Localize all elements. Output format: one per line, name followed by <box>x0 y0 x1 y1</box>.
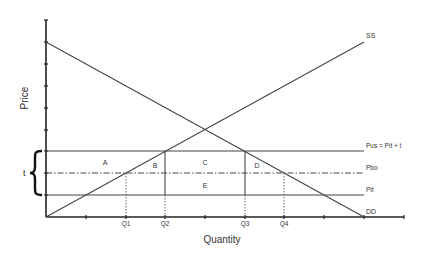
q2-label: Q2 <box>161 220 170 228</box>
q3-label: Q3 <box>241 220 250 228</box>
tariff-brace: t <box>23 151 42 195</box>
pit-label: Pit <box>366 186 374 193</box>
tariff-diagram: Price Quantity SS DD Pus = Pit + t Pbo P… <box>0 0 425 258</box>
quantity-labels: Q1 Q2 Q3 Q4 <box>122 220 289 228</box>
q4-label: Q4 <box>280 220 289 228</box>
x-axis-label: Quantity <box>203 234 240 245</box>
area-a-label: A <box>103 159 108 166</box>
area-b-label: B <box>153 162 158 169</box>
area-d-label: D <box>254 162 259 169</box>
pbo-label: Pbo <box>366 164 378 171</box>
tariff-label: t <box>23 168 26 178</box>
brace-icon <box>30 151 42 195</box>
q1-label: Q1 <box>122 220 131 228</box>
supply-label: SS <box>366 32 376 39</box>
demand-label: DD <box>366 208 376 215</box>
y-axis-label: Price <box>19 86 30 109</box>
pus-label: Pus = Pit + t <box>366 142 402 149</box>
area-e-label: E <box>203 182 208 189</box>
area-c-label: C <box>202 159 207 166</box>
